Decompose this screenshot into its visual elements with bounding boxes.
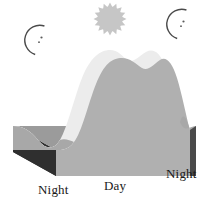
label-night-left: Night bbox=[38, 182, 69, 198]
label-night-right: Night bbox=[166, 166, 197, 182]
label-day: Day bbox=[104, 178, 126, 194]
day-night-figure: Night Day Night bbox=[0, 0, 220, 202]
